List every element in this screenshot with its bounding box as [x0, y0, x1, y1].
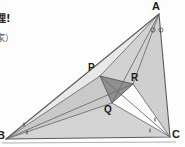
vertex-label-P: P	[88, 63, 95, 73]
vertex-label-R: R	[131, 73, 138, 83]
caption-line-1: 理!	[0, 12, 48, 27]
figure-canvas: A B C P Q R 理! 家）	[0, 0, 185, 147]
caption-line-2: 家）	[0, 32, 48, 45]
baseline-BC	[2, 142, 176, 143]
vertex-label-Q: Q	[104, 105, 112, 115]
vertex-label-A: A	[152, 1, 160, 12]
vertex-label-C: C	[172, 129, 180, 140]
caption-block: 理! 家）	[0, 12, 48, 45]
vertex-label-B: B	[0, 130, 5, 141]
